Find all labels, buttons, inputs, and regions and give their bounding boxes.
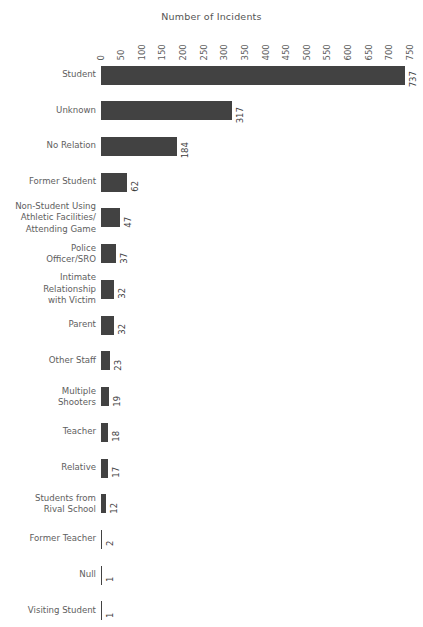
bar [101, 208, 120, 227]
category-label: No Relation [0, 141, 96, 152]
plot-area: Student737Unknown317No Relation184Former… [0, 0, 423, 627]
bar [101, 244, 116, 263]
bar-row: Multiple Shooters19 [0, 387, 423, 406]
category-label: Other Staff [0, 355, 96, 366]
bar-value-label: 62 [130, 181, 139, 192]
bar-value-label: 1 [106, 577, 115, 582]
bar-value-label: 2 [106, 541, 115, 546]
bar-value-label: 37 [120, 252, 129, 263]
bar [101, 459, 108, 478]
bar [101, 601, 102, 620]
category-label: Teacher [0, 427, 96, 438]
category-label: Former Teacher [0, 534, 96, 545]
bar [101, 566, 102, 585]
bar-row: Null1 [0, 566, 423, 585]
category-label: Multiple Shooters [0, 385, 96, 408]
bar [101, 316, 114, 335]
bar [101, 66, 405, 85]
bar-row: Former Student62 [0, 173, 423, 192]
category-label: Unknown [0, 105, 96, 116]
bar [101, 101, 232, 120]
bar-row: Non-Student Using Athletic Facilities/ A… [0, 208, 423, 227]
bar-row: Students from Rival School12 [0, 494, 423, 513]
category-label: Null [0, 570, 96, 581]
bar-row: Intimate Relationship with Victim32 [0, 280, 423, 299]
bar-value-label: 317 [236, 107, 245, 123]
bar-row: Visiting Student1 [0, 601, 423, 620]
bar [101, 387, 109, 406]
category-label: Students from Rival School [0, 492, 96, 515]
bar [101, 423, 108, 442]
bar-chart: Number of Incidents 05010015020025030035… [0, 0, 423, 627]
bar [101, 351, 110, 370]
bar-value-label: 18 [112, 431, 121, 442]
bar-row: Other Staff23 [0, 351, 423, 370]
bar-value-label: 47 [124, 217, 133, 228]
bar-value-label: 737 [409, 71, 418, 87]
bar-row: Police Officer/SRO37 [0, 244, 423, 263]
category-label: Former Student [0, 176, 96, 187]
category-label: Non-Student Using Athletic Facilities/ A… [0, 201, 96, 235]
bar-value-label: 184 [181, 143, 190, 159]
bar-value-label: 23 [114, 360, 123, 371]
bar [101, 173, 127, 192]
bar-row: Teacher18 [0, 423, 423, 442]
category-label: Parent [0, 319, 96, 330]
category-label: Police Officer/SRO [0, 242, 96, 265]
category-label: Intimate Relationship with Victim [0, 272, 96, 306]
bar [101, 494, 106, 513]
bar [101, 530, 102, 549]
bar-row: Student737 [0, 66, 423, 85]
bar-value-label: 17 [112, 467, 121, 478]
bar-row: Parent32 [0, 316, 423, 335]
bar-value-label: 12 [110, 503, 119, 514]
bar-value-label: 19 [113, 395, 122, 406]
category-label: Relative [0, 462, 96, 473]
bar-value-label: 32 [118, 288, 127, 299]
bar-row: No Relation184 [0, 137, 423, 156]
category-label: Visiting Student [0, 605, 96, 616]
bar-row: Relative17 [0, 459, 423, 478]
category-label: Student [0, 69, 96, 80]
bar-value-label: 1 [106, 612, 115, 617]
bar [101, 137, 177, 156]
bar-value-label: 32 [118, 324, 127, 335]
bar-row: Unknown317 [0, 101, 423, 120]
bar-row: Former Teacher2 [0, 530, 423, 549]
bar [101, 280, 114, 299]
